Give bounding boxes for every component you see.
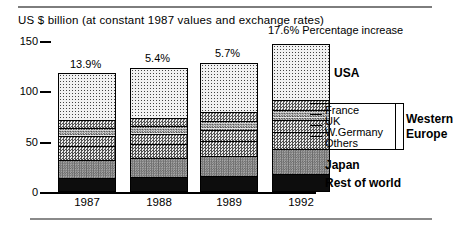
segment-japan-1988 — [130, 158, 188, 177]
y-tick-label-50: 50 — [4, 136, 38, 148]
bar-1987[interactable] — [58, 73, 116, 192]
western-europe-bracket — [396, 103, 404, 150]
segment-japan-1992 — [272, 149, 330, 174]
y-tick-mark-50 — [40, 142, 51, 144]
x-tick-label-1988: 1988 — [124, 196, 194, 208]
pct-label-1989: 5.7% — [215, 47, 240, 59]
x-tick-label-1989: 1989 — [194, 196, 264, 208]
segment-rest-of-world-1987 — [58, 178, 116, 192]
segment-rest-of-world-1992 — [272, 174, 330, 192]
segment-rest-of-world-1989 — [200, 176, 258, 192]
bar-1988[interactable] — [130, 68, 188, 192]
x-tick-label-1992: 1992 — [266, 196, 336, 208]
segment-uk-1988 — [130, 126, 188, 134]
segment-usa-1989 — [200, 63, 258, 112]
x-tick-label-1987: 1987 — [52, 196, 122, 208]
y-tick-mark-100 — [40, 91, 51, 93]
segment-others-1989 — [200, 141, 258, 156]
segment-others-1987 — [58, 146, 116, 160]
leader-line-wgermany — [310, 125, 322, 126]
leader-line-uk — [310, 114, 322, 115]
pct-label-1987: 13.9% — [70, 58, 101, 70]
segment-uk-1989 — [200, 121, 258, 130]
segment-france-1987 — [58, 120, 116, 128]
legend-label-usa: USA — [334, 66, 359, 80]
bar-1989[interactable] — [200, 63, 258, 192]
segment-wgermany-1988 — [130, 134, 188, 144]
segment-japan-1987 — [58, 160, 116, 178]
leader-line-others — [310, 136, 322, 137]
segment-others-1988 — [130, 144, 188, 158]
segment-usa-1987 — [58, 73, 116, 120]
y-tick-mark-150 — [40, 41, 51, 43]
segment-wgermany-1989 — [200, 130, 258, 141]
segment-uk-1987 — [58, 128, 116, 136]
legend-label-others: Others — [325, 137, 358, 149]
x-axis-line — [44, 192, 316, 194]
legend-label-western: Western — [406, 112, 453, 126]
leader-line-france — [310, 103, 322, 104]
segment-wgermany-1987 — [58, 136, 116, 146]
segment-france-1989 — [200, 112, 258, 121]
segment-usa-1988 — [130, 68, 188, 118]
legend-label-europe: Europe — [406, 127, 447, 141]
y-tick-label-0: 0 — [4, 186, 38, 198]
legend-label-japan: Japan — [325, 158, 360, 172]
segment-usa-1992 — [272, 44, 330, 100]
pct-label-1988: 5.4% — [145, 52, 170, 64]
y-tick-label-150: 150 — [4, 35, 38, 47]
segment-rest-of-world-1988 — [130, 177, 188, 192]
segment-france-1988 — [130, 118, 188, 126]
segment-japan-1989 — [200, 156, 258, 176]
y-tick-label-100: 100 — [4, 85, 38, 97]
legend-label-rest-of-world: Rest of world — [325, 176, 401, 190]
